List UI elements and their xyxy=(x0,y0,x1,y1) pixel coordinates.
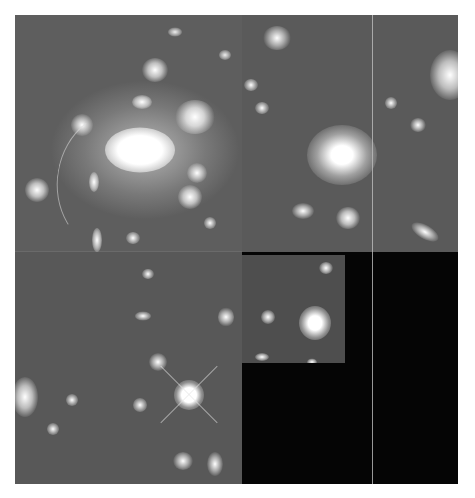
pc-galaxy xyxy=(319,262,333,274)
chip-seam-horizontal xyxy=(15,251,242,252)
planetary-camera-inset xyxy=(242,255,345,363)
pc-elliptical-galaxy xyxy=(299,306,331,340)
bottom-left-chip xyxy=(15,252,242,484)
pc-galaxy xyxy=(255,353,269,361)
top-right-chip xyxy=(242,15,458,252)
galaxy-cluster-mosaic xyxy=(15,15,458,484)
chip-seam-vertical xyxy=(372,15,373,484)
pc-galaxy xyxy=(261,310,275,324)
pc-galaxy xyxy=(307,359,317,364)
